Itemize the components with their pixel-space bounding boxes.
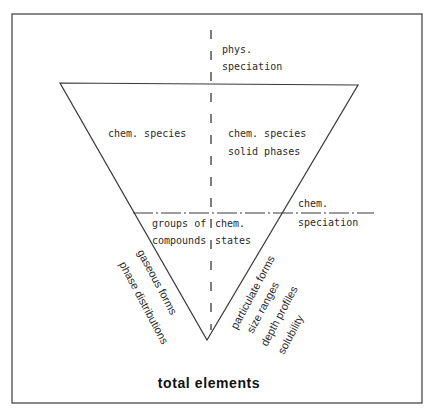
diagram-title: total elements bbox=[158, 375, 261, 391]
upper-right-label-line1: chem. species bbox=[228, 128, 306, 139]
center-left-label-line2: compounds bbox=[152, 235, 206, 246]
speciation-diagram: phys. speciation chem. species chem. spe… bbox=[0, 0, 431, 420]
center-right-label-line2: states bbox=[215, 235, 251, 246]
upper-left-label: chem. species bbox=[108, 128, 186, 139]
phys-speciation-label-line2: speciation bbox=[222, 61, 282, 72]
chem-speciation-label-line2: speciation bbox=[298, 217, 358, 228]
chem-speciation-label-line1: chem. bbox=[298, 198, 328, 209]
phys-speciation-label-line1: phys. bbox=[222, 44, 252, 55]
center-left-label-line1: groups of bbox=[152, 218, 206, 229]
inverted-triangle bbox=[60, 83, 358, 340]
center-right-label-line1: chem. bbox=[215, 218, 245, 229]
outer-frame bbox=[12, 14, 422, 403]
upper-right-label-line2: solid phases bbox=[228, 146, 300, 157]
